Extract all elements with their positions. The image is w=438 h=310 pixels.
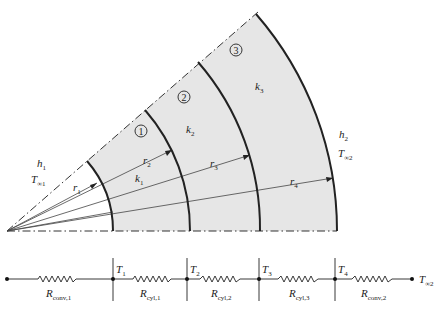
label-node-T4: T4 — [338, 263, 348, 278]
resistor-cyl1 — [133, 276, 171, 282]
svg-text:1: 1 — [139, 126, 144, 137]
wall-shaded-region — [87, 14, 337, 231]
resistor-conv1 — [38, 276, 76, 282]
label-node-T3: T3 — [262, 263, 272, 278]
label-h2: h2 — [339, 128, 349, 143]
label-h1: h1 — [37, 157, 47, 172]
resistor-conv2 — [352, 276, 392, 282]
label-R-cyl3: Rcyl,3 — [288, 287, 310, 302]
node-end — [410, 277, 414, 281]
label-R-conv2: Rconv,2 — [360, 287, 387, 302]
label-node-T2: T2 — [190, 263, 200, 278]
node-T2 — [185, 277, 189, 281]
node-T1 — [111, 277, 115, 281]
node-start — [5, 277, 9, 281]
label-R-cyl2: Rcyl,2 — [210, 287, 232, 302]
label-R-cyl1: Rcyl,1 — [139, 287, 161, 302]
node-T3 — [257, 277, 261, 281]
svg-text:2: 2 — [182, 92, 187, 103]
label-node-T-inf2: T∞2 — [419, 273, 434, 288]
diagram-canvas: 1 2 3 k1 k2 k3 r1 r2 r3 r4 h1 T∞1 h2 T∞2 — [0, 0, 438, 310]
label-T-inf2: T∞2 — [338, 147, 353, 162]
resistor-cyl3 — [278, 276, 318, 282]
radius-line-extra — [7, 212, 113, 231]
label-T-inf1: T∞1 — [31, 173, 46, 188]
resistor-cyl2 — [200, 276, 240, 282]
label-R-conv1: Rconv,1 — [45, 287, 72, 302]
label-node-T1: T1 — [116, 263, 126, 278]
node-T4 — [333, 277, 337, 281]
label-r1: r1 — [73, 181, 81, 196]
svg-text:3: 3 — [234, 45, 239, 56]
